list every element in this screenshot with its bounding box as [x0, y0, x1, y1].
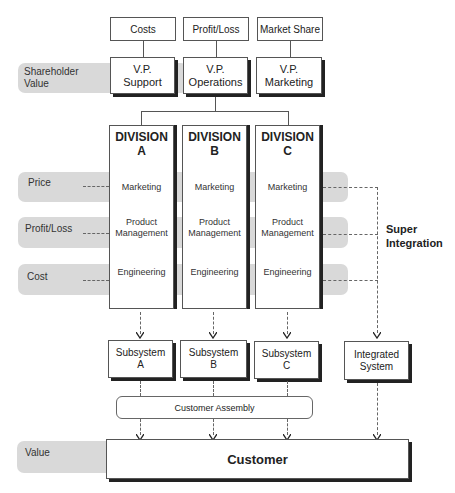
customer-assembly-label: Customer Assembly [174, 403, 254, 413]
integrated-system-box: IntegratedSystem [344, 341, 409, 380]
division-c: DIVISIONC Marketing ProductManagement En… [255, 125, 320, 309]
division-a: DIVISIONA Marketing ProductManagement En… [109, 125, 174, 309]
bus-to-division-c [288, 111, 289, 125]
subsystem-b-line2: B [189, 359, 238, 371]
costs-label: Costs [130, 24, 156, 35]
division-b-engineering: Engineering [183, 267, 246, 278]
profit-to-vp-line [216, 41, 217, 57]
subsystem-b-line1: Subsystem [189, 347, 238, 359]
subsystem-c-line1: Subsystem [262, 348, 311, 360]
super-engineering-line [323, 280, 378, 281]
division-b-title: DIVISIONB [183, 130, 246, 158]
costs-box: Costs [110, 17, 176, 41]
subsystem-a-box: SubsystemA [108, 340, 173, 378]
shareholder-value-label: Shareholder Value [24, 66, 78, 90]
value-band: Value [17, 441, 117, 473]
vp-operations-line2: Operations [189, 76, 243, 89]
vp-operations-box: V.P.Operations [183, 57, 248, 94]
division-b-letter: B [183, 144, 246, 158]
vp-support-line2: Support [123, 76, 162, 89]
vp-marketing-box: V.P.Marketing [256, 57, 322, 94]
division-a-product-management: ProductManagement [110, 217, 173, 239]
price-connector [83, 186, 109, 187]
shareholder-label-line1: Shareholder [24, 66, 78, 78]
customer-assembly-box: Customer Assembly [116, 396, 313, 419]
division-c-product-management: ProductManagement [256, 217, 319, 239]
integrated-line2: System [354, 361, 399, 373]
subsystem-c-line2: C [262, 360, 311, 372]
super-integration-vertical [377, 187, 378, 333]
division-b-pm-line1: Product [183, 217, 246, 228]
division-a-pm-line1: Product [110, 217, 173, 228]
market-share-label: Market Share [260, 24, 320, 35]
subsystem-c-to-assembly [287, 381, 288, 396]
divisions-bus-line [141, 111, 289, 112]
vp-ops-to-divisions-line [215, 97, 216, 111]
subsystem-b-to-assembly [213, 381, 214, 396]
costs-to-vp-line [143, 41, 144, 57]
bus-to-division-a [141, 111, 142, 125]
cost-label: Cost [27, 271, 48, 282]
division-c-to-subsystem [287, 312, 288, 334]
profit-loss-top-label: Profit/Loss [192, 24, 239, 35]
division-c-engineering: Engineering [256, 267, 319, 278]
cost-connector [83, 280, 109, 281]
profit-loss-box: Profit/Loss [183, 17, 249, 41]
division-b-to-subsystem [213, 312, 214, 334]
subsystem-a-to-assembly [140, 381, 141, 396]
customer-label: Customer [227, 452, 288, 467]
vp-operations-line1: V.P. [189, 63, 243, 76]
division-a-title-text: DIVISION [110, 130, 173, 144]
super-line2: Integration [386, 236, 443, 250]
vp-support-line1: V.P. [123, 63, 162, 76]
division-c-title: DIVISIONC [256, 130, 319, 158]
super-marketing-line [323, 187, 378, 188]
division-b-pm-line2: Management [183, 228, 246, 239]
vp-marketing-line2: Marketing [265, 76, 313, 89]
division-b-product-management: ProductManagement [183, 217, 246, 239]
division-a-pm-line2: Management [110, 228, 173, 239]
division-a-engineering: Engineering [110, 267, 173, 278]
profit-loss-label: Profit/Loss [25, 223, 72, 234]
division-c-marketing: Marketing [256, 182, 319, 193]
profit-loss-connector [83, 233, 109, 234]
market-share-box: Market Share [257, 17, 323, 41]
super-integration-label: Super Integration [386, 222, 443, 250]
market-to-vp-line [290, 41, 291, 57]
assembly-to-customer-b [213, 419, 214, 435]
division-a-letter: A [110, 144, 173, 158]
integrated-line1: Integrated [354, 349, 399, 361]
division-b-title-text: DIVISION [183, 130, 246, 144]
vp-marketing-line1: V.P. [265, 63, 313, 76]
subsystem-b-box: SubsystemB [180, 340, 247, 378]
division-b-marketing: Marketing [183, 182, 246, 193]
division-c-pm-line1: Product [256, 217, 319, 228]
division-b: DIVISIONB Marketing ProductManagement En… [182, 125, 247, 309]
assembly-to-customer-c [287, 419, 288, 435]
division-a-marketing: Marketing [110, 182, 173, 193]
division-a-to-subsystem [140, 312, 141, 334]
division-a-title: DIVISIONA [110, 130, 173, 158]
integrated-to-customer [377, 383, 378, 435]
shareholder-label-line2: Value [24, 78, 78, 90]
assembly-to-customer-a [140, 419, 141, 435]
subsystem-a-line2: A [116, 359, 165, 371]
super-line1: Super [386, 222, 443, 236]
subsystem-c-box: SubsystemC [254, 341, 319, 379]
customer-box: Customer [106, 439, 409, 479]
value-label: Value [25, 447, 50, 458]
vp-support-box: V.P.Support [110, 57, 175, 94]
division-c-pm-line2: Management [256, 228, 319, 239]
price-label: Price [28, 177, 51, 188]
super-pm-line [323, 234, 378, 235]
division-c-title-text: DIVISION [256, 130, 319, 144]
subsystem-a-line1: Subsystem [116, 347, 165, 359]
division-c-letter: C [256, 144, 319, 158]
